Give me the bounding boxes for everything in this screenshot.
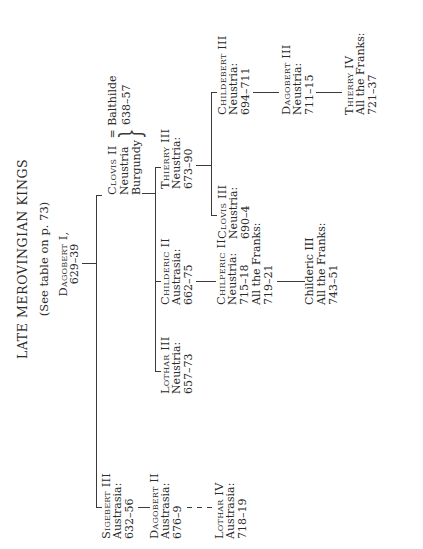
brace-icon: } — [115, 128, 145, 139]
chart-title: LATE MEROVINGIAN KINGS — [16, 159, 30, 359]
person-thierry3: Thierry III Neustria: 673–90 — [159, 129, 195, 189]
gen2-bracket-line — [155, 167, 156, 372]
gen3-bracket-line — [211, 92, 212, 216]
person-thierry4: Thierry IV All the Franks: 721–37 — [343, 32, 379, 115]
dashed-line-segment — [187, 507, 192, 508]
person-clovis3: Clovis III Neustria: 690–4 — [216, 185, 252, 239]
gen1-bracket-line — [96, 195, 97, 508]
person-dagobert2: Dagobert II Austrasia: 676–9 — [148, 473, 184, 539]
clovis2-stem — [142, 193, 156, 194]
root-stem-line — [82, 263, 96, 264]
person-childeric3: Childeric III All the Franks: 743–51 — [304, 222, 340, 305]
clovis2-tick — [96, 195, 102, 196]
thierry3-stem — [196, 165, 212, 166]
genealogy-chart: LATE MEROVINGIAN KINGS (See table on p. … — [0, 0, 423, 549]
person-lothar4: Lothar IV Austrasia: 718–19 — [213, 482, 249, 539]
person-lothar3: Lothar III Neustria: 657–73 — [159, 336, 195, 394]
root-king: Dagobert I, 629–39 — [57, 214, 81, 314]
childeric2-stem — [196, 281, 216, 282]
person-dagobert3: Dagobert III Neustria: 711–15 — [280, 44, 316, 115]
childebert3-stem — [253, 92, 279, 93]
person-childeric2: Childeric II Austrasia: 662–75 — [159, 238, 195, 305]
dashed-line-segment — [197, 507, 202, 508]
chart-subtitle: (See table on p. 73) — [38, 179, 50, 339]
clovis2-dates: 638–57 — [121, 85, 133, 126]
chilperic2-stem — [277, 281, 305, 282]
root-dates: 629–39 — [69, 214, 81, 314]
dagobert3-stem — [316, 92, 342, 93]
person-childebert3: Childebert III Neustria: 694–711 — [216, 35, 252, 115]
person-sigebert3: Sigebert III Austrasia: 632–56 — [100, 473, 136, 539]
